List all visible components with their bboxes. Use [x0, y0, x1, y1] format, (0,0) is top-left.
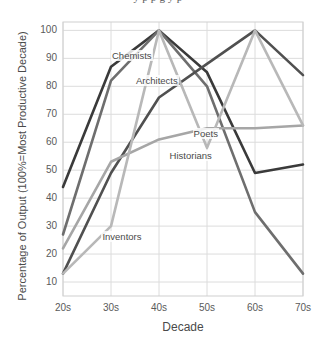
y-tick-label: 40: [31, 192, 57, 203]
y-tick-label: 30: [31, 220, 57, 231]
y-tick-label: 100: [31, 24, 57, 35]
y-tick-label: 80: [31, 80, 57, 91]
x-axis-title: Decade: [63, 320, 303, 334]
y-tick-label: 90: [31, 52, 57, 63]
y-tick-label: 20: [31, 248, 57, 259]
series-label-poets: Poets: [193, 128, 219, 139]
series-line-historians: [63, 125, 303, 248]
x-tick-label: 30s: [94, 302, 128, 313]
x-tick-label: 50s: [190, 302, 224, 313]
x-tick-label: 60s: [238, 302, 272, 313]
x-tick-label: 20s: [46, 302, 80, 313]
series-label-historians: Historians: [169, 150, 213, 161]
y-tick-label: 10: [31, 276, 57, 287]
series-label-architects: Architects: [135, 75, 179, 86]
series-label-inventors: Inventors: [101, 231, 142, 242]
y-tick-label: 60: [31, 136, 57, 147]
x-tick-label: 70s: [286, 302, 316, 313]
x-tick-label: 40s: [142, 302, 176, 313]
y-tick-label: 50: [31, 164, 57, 175]
y-tick-label: 70: [31, 108, 57, 119]
series-label-chemists: Chemists: [111, 50, 153, 61]
chart-figure: y p p g y p Percentage of Output (100%=M…: [0, 0, 316, 344]
